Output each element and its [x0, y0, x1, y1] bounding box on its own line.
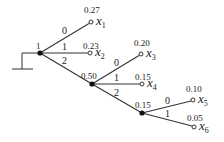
leaf-label-x2: x2	[94, 44, 105, 61]
leaf-label-x1: x1	[95, 13, 106, 30]
node-015-label: 0.15	[135, 100, 151, 110]
branch-label-root-x2: 1	[62, 41, 67, 52]
root-node-label: 1	[36, 41, 41, 51]
leaf-label-x5: x5	[197, 91, 208, 108]
branch-label-n2-x3: 0	[114, 57, 119, 68]
ground-symbol	[12, 53, 40, 69]
branch-label-n3-x5: 0	[165, 95, 170, 106]
branch-label-root-x1: 0	[62, 25, 67, 36]
branch-label-n3-x6: 1	[165, 108, 170, 119]
node-050-label: 0.50	[81, 71, 97, 81]
root-node	[37, 50, 42, 55]
code-tree-diagram: 1 0.50 0.15 0 1 2 0 1 2 0 1 0.27 0.23 0.…	[0, 0, 224, 142]
leaf-node-x6	[192, 125, 196, 129]
branch-label-n2-n3: 2	[114, 87, 119, 98]
leaf-node-x2	[88, 51, 92, 55]
leaf-label-x3: x3	[145, 45, 156, 62]
leaf-label-x6: x6	[198, 118, 209, 135]
leaf-node-x5	[191, 98, 195, 102]
internal-node-015	[139, 110, 144, 115]
internal-node-050	[89, 81, 94, 86]
leaf-node-x3	[139, 52, 143, 56]
leaf-node-x1	[89, 20, 93, 24]
leaf-label-x4: x4	[146, 75, 157, 92]
branch-label-n2-x4: 1	[114, 72, 119, 83]
branch-label-root-n2: 2	[62, 55, 67, 66]
leaf-node-x4	[140, 82, 144, 86]
